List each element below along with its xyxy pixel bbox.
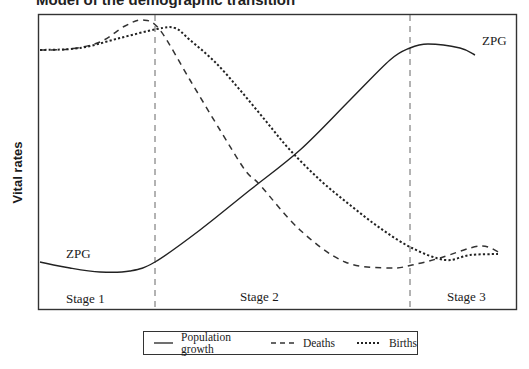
chart-plot — [0, 0, 529, 369]
legend-label: Population growth — [181, 331, 249, 355]
solid-line-icon — [154, 340, 173, 346]
legend-label: Births — [389, 337, 417, 349]
stage-2-label: Stage 2 — [240, 289, 279, 305]
dotted-line-icon — [357, 340, 381, 346]
zpg-label-right: ZPG — [482, 33, 507, 49]
legend-label: Deaths — [303, 337, 335, 349]
legend-item-births: Births — [357, 337, 417, 349]
plot-frame — [39, 15, 517, 310]
dashed-line-icon — [271, 340, 295, 346]
legend-item-population-growth: Population growth — [154, 331, 249, 355]
chart-legend: Population growth Deaths Births — [143, 331, 418, 355]
stage-1-label: Stage 1 — [66, 291, 105, 307]
y-axis-label: Vital rates — [10, 138, 25, 208]
series-births — [40, 27, 498, 260]
zpg-label-left: ZPG — [66, 246, 91, 262]
stage-3-label: Stage 3 — [447, 289, 486, 305]
legend-item-deaths: Deaths — [271, 337, 335, 349]
series-deaths — [40, 20, 500, 268]
